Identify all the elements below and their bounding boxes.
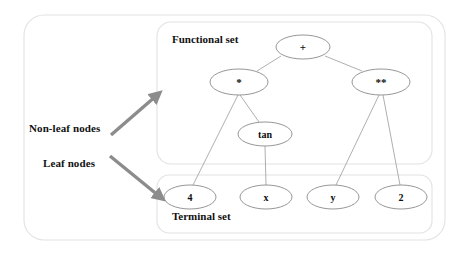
arrow-leaf [110, 156, 159, 196]
diagram-canvas: Functional set Terminal set Non-leaf nod… [0, 0, 462, 260]
tree-node-label-two: 2 [399, 192, 404, 203]
tree-edge-plus-pow [325, 56, 362, 71]
tree-edge-mul-tan [240, 95, 259, 122]
tree-node-label-four: 4 [188, 192, 193, 203]
tree-nodes [164, 35, 427, 209]
tree-node-label-tan: tan [258, 129, 272, 140]
tree-edge-pow-yvar [336, 95, 379, 185]
tree-node-label-pow: ** [376, 76, 387, 88]
tree-edge-tan-xvar [265, 146, 266, 185]
non-leaf-nodes-label: Non-leaf nodes [29, 122, 100, 134]
terminal-set-title: Terminal set [172, 210, 231, 222]
leaf-nodes-label: Leaf nodes [43, 157, 95, 169]
tree-node-label-xvar: x [264, 192, 269, 203]
tree-node-label-plus: + [300, 41, 306, 53]
annotation-arrows [110, 96, 159, 196]
tree-edge-pow-two [383, 95, 400, 185]
tree-node-label-yvar: y [331, 192, 336, 203]
tree-edge-mul-four [193, 95, 238, 185]
tree-edge-plus-mul [257, 56, 281, 71]
arrow-non-leaf [111, 96, 156, 135]
tree-node-label-mul: * [236, 76, 242, 88]
functional-set-title: Functional set [172, 33, 238, 45]
